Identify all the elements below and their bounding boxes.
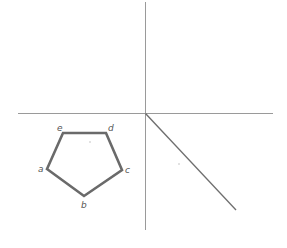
vertex-label-e: e xyxy=(57,123,63,133)
vertex-label-b: b xyxy=(81,200,87,210)
vertex-label-a: a xyxy=(38,164,44,174)
construction-point-mark xyxy=(178,163,180,165)
pentagon-center-mark xyxy=(89,141,91,143)
diagram-canvas: e d c b a xyxy=(0,0,287,248)
diagonal-45-line xyxy=(146,114,237,211)
vertex-label-c: c xyxy=(125,165,130,175)
vertex-label-d: d xyxy=(108,123,114,133)
pentagon-shape xyxy=(47,133,122,196)
